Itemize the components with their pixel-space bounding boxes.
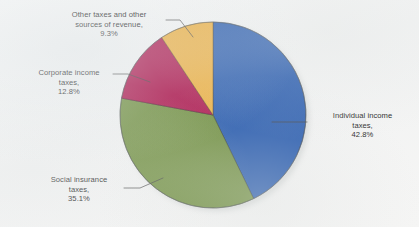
pie-label-other-taxes: Other taxes and other sources of revenue… — [47, 10, 171, 39]
pie-label-social-insurance-taxes: Social insurance taxes, 35.1% — [18, 175, 140, 204]
pie-label-individual-income-taxes: Individual income taxes, 42.8% — [310, 111, 415, 140]
figure-canvas: Other taxes and other sources of revenue… — [0, 0, 419, 227]
pie-label-corporate-income-taxes: Corporate income taxes, 12.8% — [8, 68, 130, 97]
pie-slices — [120, 22, 306, 208]
